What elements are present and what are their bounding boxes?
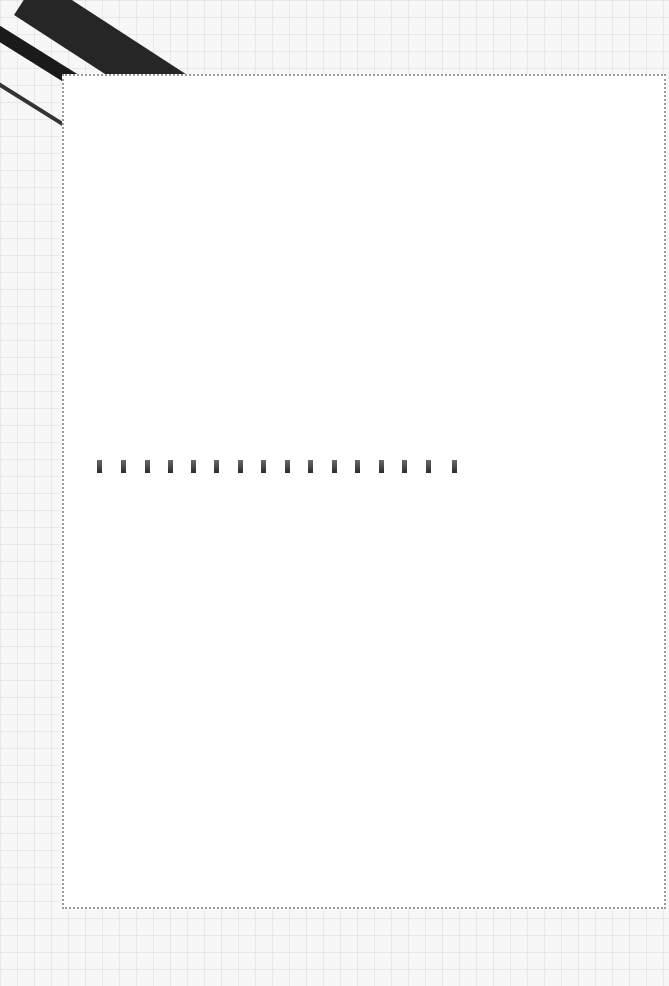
binding-mark <box>145 460 150 473</box>
blank-paper-card <box>62 74 666 909</box>
binding-mark <box>402 460 407 473</box>
binding-marks-row <box>97 460 467 474</box>
binding-mark <box>168 460 173 473</box>
binding-mark <box>332 460 337 473</box>
binding-mark <box>452 460 457 473</box>
binding-mark <box>238 460 243 473</box>
binding-mark <box>379 460 384 473</box>
binding-mark <box>285 460 290 473</box>
binding-mark <box>191 460 196 473</box>
binding-mark <box>121 460 126 473</box>
diagonal-band-thin <box>0 80 64 126</box>
binding-mark <box>308 460 313 473</box>
binding-mark <box>261 460 266 473</box>
binding-mark <box>426 460 431 473</box>
binding-mark <box>97 460 102 473</box>
binding-mark <box>355 460 360 473</box>
binding-mark <box>214 460 219 473</box>
